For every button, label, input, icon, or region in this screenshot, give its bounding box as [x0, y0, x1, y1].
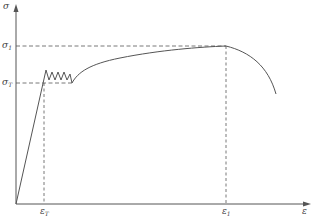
y-axis-label: σ: [3, 2, 9, 11]
eps-T-label: εT: [40, 207, 49, 217]
sigma-1-label: σ1: [2, 41, 12, 51]
eps-1-label: ε1: [222, 207, 231, 217]
sigma-T-label: σT: [2, 78, 12, 88]
stress-strain-curve: [16, 46, 276, 204]
x-axis-label: ε: [302, 207, 307, 216]
stress-strain-diagram: [0, 0, 314, 221]
y-axis-arrow-icon: [14, 4, 19, 12]
